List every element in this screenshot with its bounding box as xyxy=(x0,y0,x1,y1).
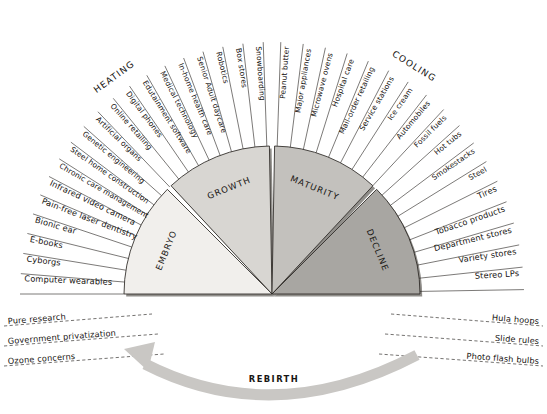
dashed-label[interactable]: Hula hoops xyxy=(492,312,540,326)
perimeter-label[interactable]: Robotics xyxy=(214,51,230,85)
perimeter-label[interactable]: Stereo LPs xyxy=(475,268,520,281)
rebirth-label: REBIRTH xyxy=(249,374,299,384)
perimeter-label[interactable]: Box stores xyxy=(234,48,249,89)
leader-line xyxy=(420,290,524,292)
dashed-label[interactable]: Ozone concerns xyxy=(7,351,75,366)
leader-line xyxy=(243,44,255,147)
dashed-label[interactable]: Slide rules xyxy=(495,333,540,346)
perimeter-label[interactable]: Hot tubs xyxy=(432,129,463,157)
rebirth-arrow: REBIRTH xyxy=(124,342,417,395)
perimeter-label[interactable]: Microwave ovens xyxy=(309,52,335,118)
diagram-canvas: EMBRYOGROWTHMATURITYDECLINEComputer wear… xyxy=(0,0,547,414)
perimeter-label[interactable]: Variety stores xyxy=(458,246,517,265)
perimeter-label[interactable]: Steel xyxy=(467,165,488,182)
perimeter-label[interactable]: Major appliances xyxy=(293,48,313,114)
perimeter-label[interactable]: Cyborgs xyxy=(26,253,61,267)
cooling-marker: COOLING xyxy=(390,49,438,84)
perimeter-label[interactable]: E-books xyxy=(29,234,64,251)
dashed-label[interactable]: Government privatization xyxy=(7,328,116,346)
dashed-label[interactable]: Pure research xyxy=(7,311,66,326)
perimeter-label[interactable]: Peanut butter xyxy=(278,45,291,99)
perimeter-label[interactable]: Bionic ear xyxy=(34,215,78,237)
lifecycle-fan-svg: EMBRYOGROWTHMATURITYDECLINEComputer wear… xyxy=(0,0,547,414)
perimeter-label[interactable]: Tires xyxy=(475,183,498,201)
dashed-label[interactable]: Photo flash bulbs xyxy=(466,351,539,366)
